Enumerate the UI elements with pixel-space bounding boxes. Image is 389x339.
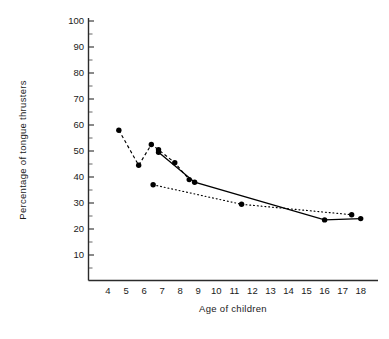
x-tick-label: 8 [178, 285, 183, 296]
x-tick-label: 18 [355, 285, 366, 296]
x-axis-group: 456789101112131415161718 [89, 281, 379, 297]
x-tick-label: 14 [283, 285, 294, 296]
y-tick-label: 30 [73, 197, 84, 208]
y-tick-label: 90 [73, 41, 84, 52]
tongue-thrusters-line-chart: 102030405060708090100 456789101112131415… [0, 0, 389, 339]
data-point [358, 216, 363, 221]
y-tick-label: 70 [73, 93, 84, 104]
y-axis-group: 102030405060708090100 [68, 15, 94, 280]
x-axis-tick-labels: 456789101112131415161718 [105, 285, 366, 296]
chart-canvas: 102030405060708090100 456789101112131415… [0, 0, 389, 339]
x-axis-title: Age of children [199, 303, 267, 314]
data-series-layer [116, 128, 363, 223]
y-tick-label: 100 [68, 15, 84, 26]
y-tick-label: 20 [73, 223, 84, 234]
series-dashed-series [116, 128, 192, 183]
x-tick-label: 15 [301, 285, 312, 296]
data-point [136, 163, 141, 168]
data-point [150, 182, 155, 187]
x-tick-label: 7 [160, 285, 165, 296]
x-tick-label: 6 [141, 285, 146, 296]
series-dotted-series [150, 182, 354, 217]
series-path [153, 185, 352, 215]
y-tick-label: 80 [73, 67, 84, 78]
y-axis-title: Percentage of tongue thrusters [17, 80, 28, 219]
x-tick-label: 17 [337, 285, 348, 296]
x-tick-label: 10 [211, 285, 222, 296]
x-tick-label: 13 [265, 285, 276, 296]
y-axis-tick-labels: 102030405060708090100 [68, 15, 84, 260]
x-tick-label: 9 [196, 285, 201, 296]
data-point [239, 202, 244, 207]
x-tick-label: 12 [247, 285, 258, 296]
y-tick-label: 40 [73, 171, 84, 182]
x-tick-label: 16 [319, 285, 330, 296]
series-path [119, 130, 189, 179]
x-tick-label: 4 [105, 285, 110, 296]
series-solid-series [156, 150, 364, 223]
data-point [116, 128, 121, 133]
y-tick-label: 60 [73, 119, 84, 130]
data-point [192, 180, 197, 185]
data-point [349, 212, 354, 217]
series-path [159, 152, 361, 220]
data-point [322, 217, 327, 222]
data-point [149, 142, 154, 147]
x-tick-label: 11 [229, 285, 239, 296]
data-point [156, 150, 161, 155]
x-tick-label: 5 [123, 285, 128, 296]
y-tick-label: 10 [73, 249, 84, 260]
y-tick-label: 50 [73, 145, 84, 156]
